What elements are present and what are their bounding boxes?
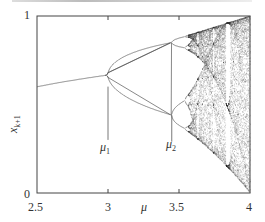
x-tick-label-3: 3 [105,201,111,213]
attractor-branch [185,46,187,48]
attractor-branch [185,127,187,128]
y-axis-label-sub: k+1 [13,115,22,128]
attractor-branch [171,37,184,43]
attractor-branch [171,115,184,128]
attractor-branch [107,43,171,75]
attractor-branch [107,43,171,75]
x-tick-label-3.5: 3.5 [169,201,184,213]
attractor-branch [37,75,106,87]
attractor-branch [107,76,171,115]
bifurcation-plot [0,0,265,222]
y-tick-label-1: 1 [24,9,30,21]
attractor-branch [185,35,187,36]
attractor-branch [171,101,184,115]
y-axis-label-main: x [6,128,20,133]
x-tick-label-4: 4 [246,201,252,213]
attractor-branch [185,129,187,131]
x-tick-label-2.5: 2.5 [28,201,43,213]
y-axis-label: xk+1 [6,115,22,133]
y-tick-label-0: 0 [24,188,30,200]
x-axis-label: μ [141,201,147,213]
mu1-annotation: μ1 [100,140,110,156]
chaotic-region [188,16,251,193]
attractor-branch [185,101,187,105]
attractor-branch [171,43,184,115]
attractor-branch [185,48,187,49]
attractor-branch [185,95,187,99]
mu2-annotation: μ2 [166,137,176,153]
